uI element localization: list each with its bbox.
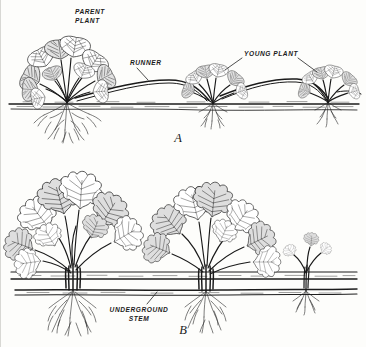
label-underground-stem-line1: UNDERGROUND	[110, 306, 169, 313]
botanical-figure: PARENT PLANT RUNNER YOUNG PLANT A	[0, 0, 366, 347]
callout-young-plant: YOUNG PLANT	[225, 50, 317, 72]
panel-a-ground	[9, 102, 359, 111]
plant-parent-strawberry	[17, 34, 119, 143]
root-system	[185, 291, 226, 333]
label-runner: RUNNER	[130, 59, 162, 66]
panel-letter-a: A	[173, 131, 182, 145]
leader-line-young-right	[298, 58, 317, 72]
leaflet-cluster	[180, 62, 249, 101]
label-parent-plant-line2: PLANT	[75, 17, 100, 24]
leader-line-young-left	[225, 58, 242, 70]
callout-underground-stem: UNDERGROUND STEM	[110, 292, 169, 322]
label-young-plant: YOUNG PLANT	[244, 50, 298, 57]
plant-young-right	[297, 64, 361, 127]
figure-canvas: PARENT PLANT RUNNER YOUNG PLANT A	[1, 0, 366, 347]
leader-line-runner	[137, 68, 148, 80]
runner-stolon	[75, 79, 361, 101]
leaf-cluster	[1, 169, 149, 280]
root-system	[48, 290, 96, 336]
leader-line-underground-stem	[147, 292, 157, 304]
panel-b: UNDERGROUND STEM B	[1, 169, 357, 337]
root-system	[293, 290, 319, 315]
root-system	[34, 102, 101, 143]
callout-parent-plant: PARENT PLANT	[75, 8, 105, 24]
shoot-petioles	[294, 247, 321, 273]
root-system	[315, 102, 341, 127]
panel-letter-b: B	[179, 323, 187, 337]
label-parent-plant-line1: PARENT	[75, 8, 105, 15]
callout-runner: RUNNER	[130, 59, 162, 80]
crown-petioles	[310, 79, 348, 102]
plant-rhizome-shoot-right	[281, 232, 334, 315]
label-underground-stem-line2: STEM	[129, 315, 150, 322]
panel-a: PARENT PLANT RUNNER YOUNG PLANT A	[9, 8, 361, 145]
root-system	[199, 103, 227, 129]
plant-young-middle	[180, 62, 249, 129]
